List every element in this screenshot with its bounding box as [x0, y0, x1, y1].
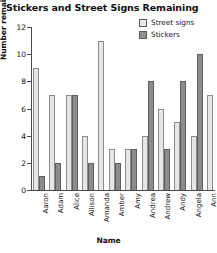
bar-group: [158, 27, 170, 190]
bar-group: [142, 27, 154, 190]
bar-group: [82, 27, 94, 190]
y-axis-label: Number remaining: [0, 0, 8, 60]
x-axis-label-cell: Allison: [79, 192, 91, 236]
bar-group: [109, 27, 121, 190]
bar-groups: [32, 27, 214, 190]
bar: [131, 149, 137, 190]
y-axis-tick-label: 0: [10, 186, 26, 195]
x-axis-label-cell: Adam: [48, 192, 60, 236]
bar: [98, 41, 104, 190]
bar: [55, 163, 61, 190]
y-axis-tick-label: 4: [10, 131, 26, 140]
bar-chart: Stickers and Street Signs Remaining Stre…: [0, 0, 217, 253]
y-axis-tick: [27, 54, 31, 55]
bar-group: [98, 27, 104, 190]
bar: [207, 95, 213, 190]
y-axis-tick-label: 10: [10, 50, 26, 59]
y-axis-tick: [27, 109, 31, 110]
bar: [39, 176, 45, 190]
legend-item-street-signs: Street signs: [139, 18, 194, 27]
bar: [197, 54, 203, 190]
chart-title: Stickers and Street Signs Remaining: [6, 2, 211, 13]
x-axis-label-cell: Aaron: [33, 192, 45, 236]
y-axis-tick: [27, 136, 31, 137]
x-axis-label-cell: Amy: [125, 192, 137, 236]
x-axis-label: Name: [0, 236, 217, 245]
x-axis-label-cell: Angela: [186, 192, 198, 236]
bar: [115, 163, 121, 190]
y-axis-tick-label: 2: [10, 158, 26, 167]
bar: [33, 68, 39, 190]
y-axis-tick: [27, 190, 31, 191]
x-axis-tick-label: Ann: [210, 193, 217, 207]
y-axis-tick-label: 6: [10, 104, 26, 113]
bar-group: [66, 27, 78, 190]
bar-group: [125, 27, 137, 190]
bar-group: [191, 27, 203, 190]
y-axis-tick: [27, 27, 31, 28]
x-axis-label-cell: Andrea: [140, 192, 152, 236]
bar-group: [49, 27, 61, 190]
y-axis-tick-label: 12: [10, 23, 26, 32]
x-axis-label-cell: Amanda: [94, 192, 106, 236]
bar-group: [174, 27, 186, 190]
bar-group: [33, 27, 45, 190]
bar: [180, 81, 186, 190]
bar-group: [207, 27, 213, 190]
x-axis-label-cell: Andrew: [155, 192, 167, 236]
y-axis-tick: [27, 163, 31, 164]
x-axis-label-cell: Ann: [201, 192, 213, 236]
legend-label: Street signs: [151, 18, 194, 27]
bar: [164, 149, 170, 190]
x-axis-label-cell: Amber: [109, 192, 121, 236]
x-axis-label-cell: Alice: [64, 192, 76, 236]
x-axis-labels: AaronAdamAliceAllisonAmandaAmberAmyAndre…: [32, 192, 214, 236]
x-axis-label-cell: Andy: [170, 192, 182, 236]
bar: [88, 163, 94, 190]
y-axis-tick: [27, 81, 31, 82]
legend-swatch-icon: [139, 19, 147, 27]
bar: [72, 95, 78, 190]
bar: [148, 81, 154, 190]
y-axis-tick-label: 8: [10, 77, 26, 86]
